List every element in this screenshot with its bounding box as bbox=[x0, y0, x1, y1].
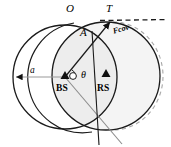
theta-vertex-dot bbox=[70, 73, 77, 80]
relay-station-label: RS bbox=[97, 84, 110, 94]
radius-label-a: a bbox=[30, 66, 35, 76]
point-label-a: A bbox=[80, 27, 87, 38]
tangent-dashed-line bbox=[100, 20, 168, 21]
point-label-o: O bbox=[66, 3, 74, 14]
angle-label-theta: θ bbox=[81, 70, 86, 80]
point-label-t: T bbox=[106, 3, 112, 14]
base-station-label: BS bbox=[56, 84, 68, 94]
diagram-figure: O T A Fcov a θ BS RS bbox=[0, 0, 171, 147]
